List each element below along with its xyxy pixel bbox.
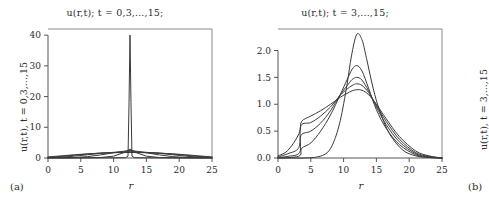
panel-a-y-tick-label: 10 bbox=[30, 122, 42, 132]
panel-a: u(r,t); t = 0,3,...,15; 0102030400510152… bbox=[0, 0, 230, 207]
panel-a-tag: (a) bbox=[10, 181, 24, 192]
panel-a-y-tick-label: 0 bbox=[35, 153, 41, 163]
panel-b-x-tick-label: 10 bbox=[338, 165, 350, 175]
panel-a-x-tick-label: 5 bbox=[78, 165, 84, 175]
panel-a-x-tick-label: 15 bbox=[141, 165, 153, 175]
panel-a-xlabel: r bbox=[16, 180, 246, 191]
panel-b-curves bbox=[278, 34, 442, 159]
panel-b-series bbox=[278, 34, 442, 159]
panel-b-frame bbox=[278, 29, 442, 158]
panel-b-x-tick-label: 20 bbox=[403, 165, 415, 175]
panel-a-curves bbox=[48, 35, 212, 158]
panel-b-y-tick-label: 0.0 bbox=[257, 153, 272, 163]
panel-b-x-tick-label: 25 bbox=[436, 165, 448, 175]
panel-b-xlabel: r bbox=[246, 180, 476, 191]
panel-b-y-tick-label: 1.5 bbox=[257, 73, 272, 83]
panel-b-y-tick-label: 0.5 bbox=[257, 126, 272, 136]
panel-a-x-tick-label: 0 bbox=[45, 165, 51, 175]
panel-a-x-tick-label: 20 bbox=[173, 165, 185, 175]
panel-b-x-tick-label: 0 bbox=[275, 165, 281, 175]
panel-a-y-tick-label: 20 bbox=[30, 92, 42, 102]
panel-b-ylabel: u(r,t), t = 3,...,15 bbox=[478, 69, 489, 150]
panel-a-x-tick-label: 25 bbox=[206, 165, 218, 175]
panel-b-y-tick-label: 1.0 bbox=[257, 99, 272, 109]
panel-b: u(r,t); t = 3,...,15; 0.00.51.01.52.0051… bbox=[230, 0, 460, 207]
panel-a-y-tick-label: 40 bbox=[30, 30, 42, 40]
panel-a-plot: 0102030400510152025 bbox=[0, 0, 230, 207]
panel-b-x-tick-label: 5 bbox=[308, 165, 314, 175]
panel-b-series bbox=[278, 66, 442, 158]
panel-b-tag: (b) bbox=[468, 181, 482, 192]
panel-a-y-tick-label: 30 bbox=[30, 61, 42, 71]
panel-b-y-tick-label: 2.0 bbox=[257, 46, 272, 56]
panel-a-ylabel: u(r,t), t = 0,3,...,15 bbox=[18, 62, 29, 152]
panel-a-x-tick-label: 10 bbox=[108, 165, 120, 175]
panel-b-x-tick-label: 15 bbox=[371, 165, 383, 175]
panel-b-plot: 0.00.51.01.52.00510152025 bbox=[230, 0, 460, 207]
panel-a-series bbox=[48, 35, 212, 158]
